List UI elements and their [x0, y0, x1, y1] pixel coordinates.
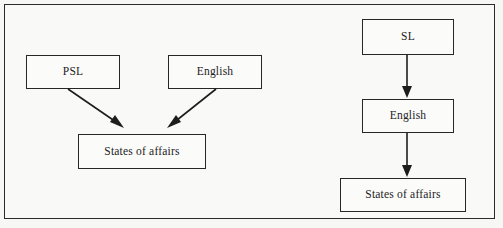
node-states-of-affairs-left: States of affairs	[78, 134, 206, 169]
node-states-of-affairs-left-label: States of affairs	[104, 145, 179, 157]
figure-root: PSL English States of affairs SL English…	[0, 0, 503, 228]
node-english-left: English	[168, 55, 262, 89]
node-states-of-affairs-right: States of affairs	[340, 178, 466, 212]
node-sl: SL	[362, 19, 454, 55]
node-psl: PSL	[26, 55, 120, 89]
node-english-right-label: English	[390, 110, 427, 122]
node-states-of-affairs-right-label: States of affairs	[365, 189, 440, 201]
node-psl-label: PSL	[63, 66, 83, 78]
node-sl-label: SL	[401, 31, 415, 43]
node-english-left-label: English	[197, 66, 234, 78]
node-english-right: English	[362, 99, 454, 133]
